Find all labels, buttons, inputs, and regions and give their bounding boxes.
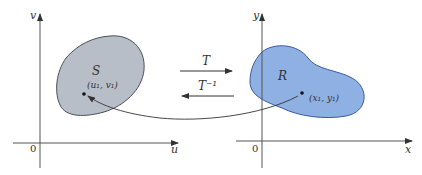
y-axis-label: y bbox=[252, 9, 260, 22]
forward-label: T bbox=[202, 54, 211, 68]
region-r-label: R bbox=[277, 69, 287, 83]
region-s-label: S bbox=[92, 64, 100, 78]
point-x1-y1-label: (x₁, y₁) bbox=[309, 93, 340, 103]
point-u1-v1-label: (u₁, v₁) bbox=[87, 80, 118, 90]
uv-origin-label: 0 bbox=[30, 143, 36, 154]
uv-plane: v 0 u S (u₁, v₁) bbox=[13, 9, 178, 168]
xy-plane: y 0 x R (x₁, y₁) bbox=[236, 9, 412, 168]
transformation-diagram: v 0 u S (u₁, v₁) T T⁻¹ y 0 x R (x₁, y₁) bbox=[0, 0, 422, 175]
transform-arrows: T T⁻¹ bbox=[180, 54, 234, 96]
xy-origin-label: 0 bbox=[252, 143, 258, 154]
v-axis-label: v bbox=[30, 9, 37, 22]
region-r bbox=[250, 46, 364, 118]
point-x1-y1 bbox=[300, 91, 304, 95]
u-axis-label: u bbox=[171, 143, 178, 156]
inverse-label: T⁻¹ bbox=[198, 79, 217, 93]
x-axis-label: x bbox=[405, 143, 412, 156]
point-u1-v1 bbox=[82, 92, 86, 96]
